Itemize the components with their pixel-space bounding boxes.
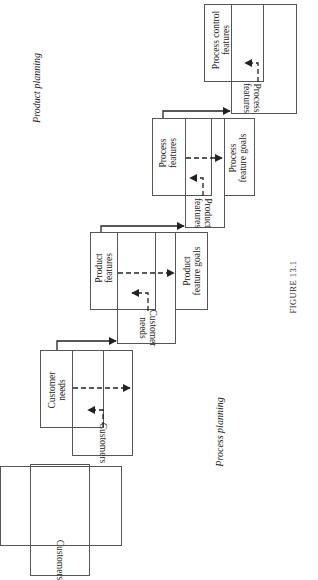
connector-2-3 xyxy=(101,226,184,232)
dashed-arrow-1a xyxy=(88,410,103,427)
figure-caption: FIGURE 13.1 xyxy=(288,260,298,313)
dashed-arrow-2a xyxy=(132,293,148,311)
product-planning-label: Product planning xyxy=(32,53,42,123)
dashed-arrow-3a xyxy=(190,178,203,196)
dashed-arrow-4a xyxy=(245,63,258,82)
process-planning-label: Process planning xyxy=(215,397,225,466)
connector-3-4 xyxy=(163,111,230,118)
connector-1-2 xyxy=(57,341,116,350)
